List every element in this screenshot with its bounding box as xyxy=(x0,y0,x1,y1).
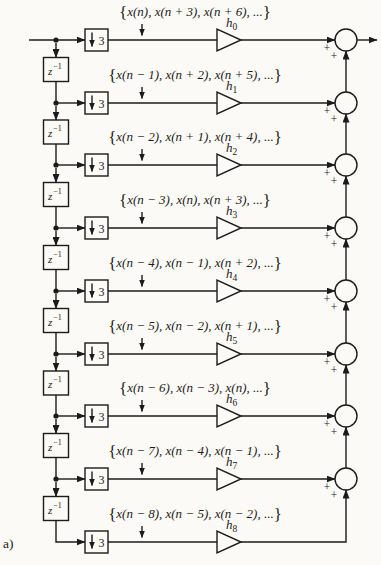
plus-sign: + xyxy=(324,356,331,368)
downsample-block xyxy=(85,405,108,427)
downsample-factor-label: 3 xyxy=(99,34,105,48)
adder-circle xyxy=(335,29,357,51)
plus-sign: + xyxy=(331,364,338,376)
sequence-label: {x(n − 3), x(n), x(n + 3), ...} xyxy=(119,191,271,210)
sequence-label: {x(n − 4), x(n − 1), x(n + 2), ...} xyxy=(108,254,282,273)
sequence-label: {x(n − 6), x(n − 3), x(n), ...} xyxy=(119,379,271,398)
plus-sign: + xyxy=(324,418,331,430)
junction-dot xyxy=(53,476,58,481)
plus-sign: + xyxy=(331,238,338,250)
plus-sign: + xyxy=(324,105,331,117)
adder-circle xyxy=(335,405,357,427)
sequence-label: {x(n − 2), x(n + 1), x(n + 4), ...} xyxy=(108,128,282,147)
junction-dot xyxy=(53,225,58,230)
downsample-factor-label: 3 xyxy=(99,97,105,111)
downsample-factor-label: 3 xyxy=(99,536,105,550)
plus-sign: + xyxy=(324,230,331,242)
sequence-label: {x(n), x(n + 3), x(n + 6), ...} xyxy=(119,3,271,22)
gain-triangle xyxy=(217,154,241,176)
downsample-factor-label: 3 xyxy=(99,159,105,173)
plus-sign: + xyxy=(331,301,338,313)
adder-circle xyxy=(335,217,357,239)
plus-sign: + xyxy=(324,167,331,179)
downsample-block xyxy=(85,531,108,553)
plus-sign: + xyxy=(331,489,338,501)
sequence-label: {x(n − 8), x(n − 5), x(n − 2), ...} xyxy=(108,505,282,524)
junction-dot xyxy=(53,413,58,418)
downsample-block xyxy=(85,468,108,490)
adder-circle xyxy=(335,154,357,176)
gain-triangle xyxy=(217,280,241,302)
gain-triangle xyxy=(217,531,241,553)
adder-circle xyxy=(335,280,357,302)
gain-triangle xyxy=(217,468,241,490)
sequence-label: {x(n − 7), x(n − 4), x(n − 1), ...} xyxy=(108,442,282,461)
gain-triangle xyxy=(217,92,241,114)
downsample-block xyxy=(85,343,108,365)
downsample-block xyxy=(85,92,108,114)
plus-sign: + xyxy=(331,113,338,125)
downsample-block xyxy=(85,217,108,239)
plus-sign: + xyxy=(324,42,331,54)
junction-dot xyxy=(53,162,58,167)
junction-dot xyxy=(53,100,58,105)
downsample-block xyxy=(85,280,108,302)
downsample-block xyxy=(85,29,108,51)
gain-triangle xyxy=(217,217,241,239)
downsample-factor-label: 3 xyxy=(99,348,105,362)
downsample-factor-label: 3 xyxy=(99,473,105,487)
diagram-svg: z−13{x(n), x(n + 3), x(n + 6), ...}h0++z… xyxy=(0,0,381,565)
adder-circle xyxy=(335,343,357,365)
adder-circle xyxy=(335,468,357,490)
gain-triangle xyxy=(217,29,241,51)
junction-dot xyxy=(53,288,58,293)
junction-dot xyxy=(53,37,58,42)
sequence-label: {x(n − 1), x(n + 2), x(n + 5), ...} xyxy=(108,66,282,85)
sequence-label: {x(n − 5), x(n − 2), x(n + 1), ...} xyxy=(108,317,282,336)
gain-triangle xyxy=(217,405,241,427)
plus-sign: + xyxy=(331,426,338,438)
plus-sign: + xyxy=(324,293,331,305)
panel-label: a) xyxy=(3,536,14,552)
bus-corner-line xyxy=(56,521,85,543)
plus-sign: + xyxy=(331,50,338,62)
junction-dot xyxy=(53,351,58,356)
plus-sign: + xyxy=(331,175,338,187)
downsample-factor-label: 3 xyxy=(99,410,105,424)
gain-triangle xyxy=(217,343,241,365)
downsample-factor-label: 3 xyxy=(99,222,105,236)
plus-sign: + xyxy=(324,481,331,493)
figure-panel: z−13{x(n), x(n + 3), x(n + 6), ...}h0++z… xyxy=(0,0,381,565)
downsample-factor-label: 3 xyxy=(99,285,105,299)
adder-circle xyxy=(335,92,357,114)
downsample-block xyxy=(85,154,108,176)
